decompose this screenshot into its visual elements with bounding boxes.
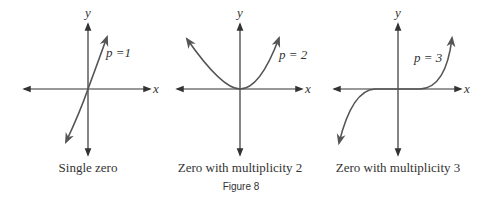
panel-multiplicity-3: y x p = 3: [334, 5, 470, 155]
figure-label: Figure 8: [223, 181, 260, 192]
curve-label: p = 2: [278, 47, 308, 62]
panel-single-zero: y x p =1: [24, 5, 159, 155]
caption-single-zero: Single zero: [59, 160, 118, 176]
x-axis-label: x: [463, 81, 470, 96]
caption-multiplicity-3: Zero with multiplicity 3: [336, 160, 461, 176]
x-axis-label: x: [304, 81, 311, 96]
y-axis-label: y: [235, 5, 243, 20]
y-axis-label: y: [83, 5, 91, 20]
curve-label: p = 3: [413, 50, 443, 65]
caption-multiplicity-2: Zero with multiplicity 2: [178, 160, 303, 176]
y-axis-label: y: [393, 5, 401, 20]
curve-label: p =1: [105, 45, 131, 60]
x-axis-label: x: [152, 81, 159, 96]
panel-multiplicity-2: y x p = 2: [177, 5, 311, 155]
curve-p2: [187, 38, 279, 89]
